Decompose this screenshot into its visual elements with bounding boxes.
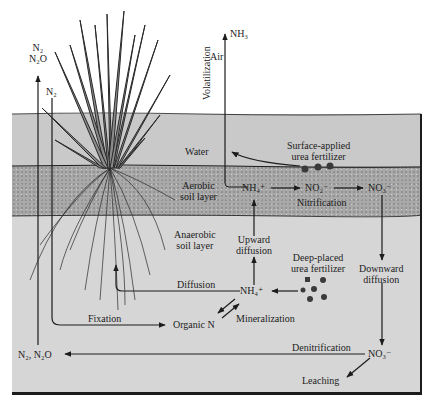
species-n2-top: N₂ <box>46 86 57 97</box>
label-deep-fertilizer: Deep-placedurea fertilizer <box>291 252 345 274</box>
process-downward-diffusion: Downwarddiffusion <box>359 263 403 285</box>
rice-plant-icon <box>42 11 170 168</box>
species-no2-aerobic: NO₂⁻ <box>305 182 328 193</box>
process-leaching: Leaching <box>302 375 339 386</box>
process-fixation: Fixation <box>88 313 121 324</box>
arrow-leaching <box>347 358 370 377</box>
process-nitrification: Nitrification <box>297 197 346 208</box>
zone-label-air: Air <box>210 51 223 62</box>
species-n2-n2o-bottom: N₂, N₂O <box>18 349 52 360</box>
deep-fertilizer-granules-icon <box>301 277 328 302</box>
species-nh3: NH₃ <box>230 28 248 39</box>
species-organic-n: Organic N <box>173 319 215 330</box>
species-n2-n2o-top: N₂N₂O <box>29 42 47 64</box>
species-no3-anaerobic: NO₃⁻ <box>368 348 391 359</box>
species-nh4-anaerobic: NH₄⁺ <box>240 285 263 296</box>
process-upward-diffusion: Upwarddiffusion <box>236 234 272 256</box>
surface-fertilizer-granules-icon <box>302 163 334 173</box>
zone-label-anaerobic: Anaerobicsoil layer <box>174 229 216 251</box>
process-diffusion: Diffusion <box>177 279 215 290</box>
process-mineralization: Mineralization <box>236 313 295 324</box>
zone-label-aerobic: Aerobicsoil layer <box>180 180 217 202</box>
process-denitrification: Denitrification <box>292 342 351 353</box>
species-nh4-aerobic: NH₄⁺ <box>242 182 265 193</box>
process-volatilization: Volatilization <box>201 46 212 100</box>
zone-label-water: Water <box>185 146 209 157</box>
label-surface-fertilizer: Surface-appliedurea fertilizer <box>287 140 350 162</box>
species-no3-aerobic: NO₃⁻ <box>368 182 391 193</box>
arrow-immobilization <box>218 299 235 313</box>
